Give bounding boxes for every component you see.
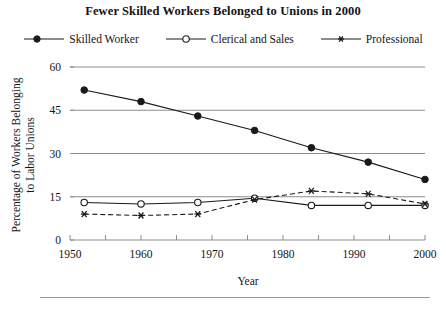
data-point bbox=[365, 191, 372, 197]
x-tick-label: 1970 bbox=[201, 248, 224, 260]
x-tick-label: 1990 bbox=[343, 248, 366, 260]
x-axis-title: Year bbox=[237, 275, 258, 287]
y-tick-label: 15 bbox=[50, 191, 62, 203]
data-point bbox=[81, 211, 88, 217]
data-point bbox=[308, 188, 315, 194]
bottom-divider bbox=[40, 297, 430, 298]
y-tick-label: 30 bbox=[50, 148, 62, 160]
series-line bbox=[84, 90, 425, 179]
data-point bbox=[138, 201, 144, 207]
y-axis-title-line1: Percentage of Workers Belonging bbox=[10, 77, 23, 232]
data-point bbox=[308, 144, 315, 151]
y-tick-label: 0 bbox=[55, 234, 61, 246]
data-point bbox=[81, 87, 88, 94]
y-tick-label: 45 bbox=[50, 104, 62, 116]
data-point bbox=[422, 176, 429, 183]
x-tick-label: 1980 bbox=[272, 248, 295, 260]
data-point bbox=[365, 202, 371, 208]
data-point bbox=[138, 98, 145, 105]
data-series-group bbox=[81, 87, 429, 219]
x-tick-label: 1950 bbox=[59, 248, 82, 260]
data-point bbox=[308, 202, 314, 208]
data-point bbox=[195, 113, 202, 120]
x-tick-label: 1960 bbox=[130, 248, 153, 260]
data-point bbox=[365, 159, 372, 166]
chart-plot-area: 015304560 195019601970198019902000 Year … bbox=[0, 0, 446, 312]
data-point bbox=[251, 127, 258, 134]
data-point bbox=[195, 199, 201, 205]
data-point bbox=[81, 199, 87, 205]
y-axis-title-line2: to Labor Unions bbox=[24, 117, 36, 193]
y-tick-labels-group: 015304560 bbox=[50, 61, 62, 246]
x-tick-labels-group: 195019601970198019902000 bbox=[59, 248, 437, 260]
series-skilled-worker bbox=[81, 87, 428, 183]
chart-figure: Fewer Skilled Workers Belonged to Unions… bbox=[0, 0, 446, 312]
data-point bbox=[194, 211, 201, 217]
y-tick-label: 60 bbox=[50, 61, 62, 73]
gridlines-group bbox=[70, 67, 425, 197]
data-point bbox=[138, 212, 145, 218]
x-tick-label: 2000 bbox=[414, 248, 437, 260]
